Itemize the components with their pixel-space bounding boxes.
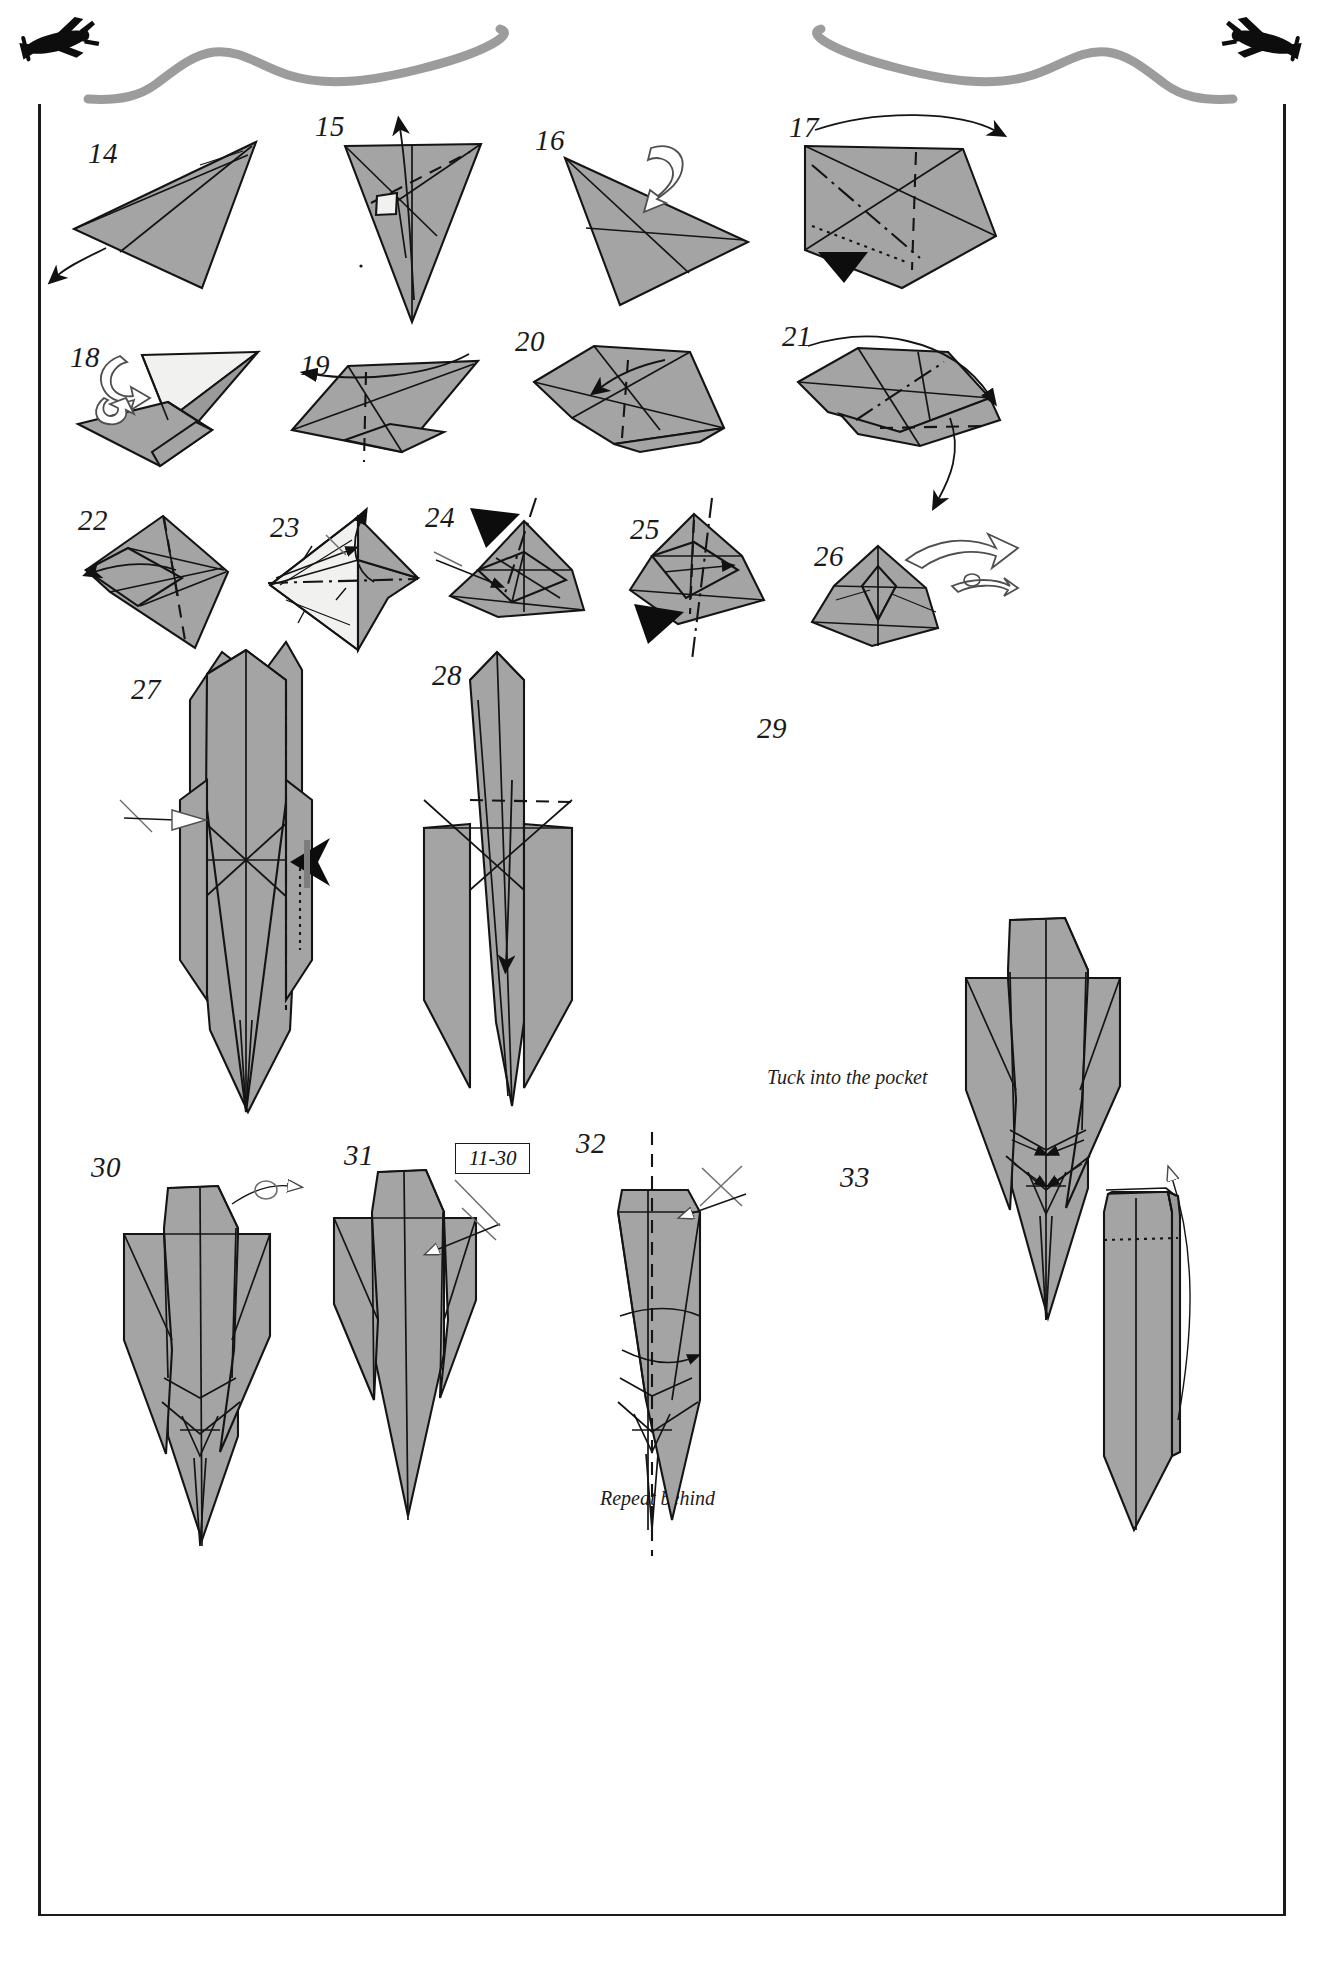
- figure-step-20: [534, 346, 724, 452]
- figure-step-24: [434, 498, 584, 617]
- figure-step-23: [268, 517, 418, 650]
- figure-step-31: [334, 1170, 500, 1520]
- figure-step-14: [57, 142, 256, 288]
- figure-step-32: [618, 1132, 746, 1556]
- figure-step-19: [292, 354, 478, 462]
- origami-instruction-page: 14 15 16 17 18 19 20 21 22 23 24 25 26 2…: [0, 0, 1321, 1966]
- figure-step-33: [1104, 1178, 1190, 1530]
- figure-step-27: [120, 642, 330, 1112]
- figure-step-17: [805, 115, 996, 288]
- figure-step-21: [798, 337, 1000, 500]
- figure-step-22: [86, 516, 228, 648]
- figure-step-29: [966, 918, 1120, 1320]
- figure-step-18: [78, 352, 258, 466]
- figure-step-16: [565, 146, 748, 305]
- figure-step-26: [812, 534, 1018, 646]
- figure-step-25: [630, 498, 764, 660]
- figure-step-15: [345, 128, 481, 322]
- figure-step-28: [424, 652, 572, 1106]
- origami-figures-layer: .pf{fill:#a4a4a4;stroke:#141414;stroke-w…: [0, 0, 1321, 1966]
- figure-step-30: [124, 1181, 290, 1546]
